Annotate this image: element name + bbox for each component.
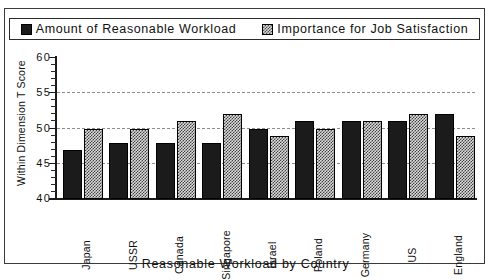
y-minor-tick <box>51 64 56 65</box>
x-axis-title: Reasonable Workload by Country <box>5 257 486 271</box>
bar-series-b <box>316 129 335 200</box>
category-label: Japan <box>58 203 102 259</box>
chart-legend: Amount of Reasonable Workload Importance… <box>9 18 480 40</box>
y-minor-tick <box>51 177 56 178</box>
bar-series-b <box>363 121 382 199</box>
x-axis-category-labels: JapanUSSRCanadaSingaporeIsraelPolandGerm… <box>57 203 477 261</box>
y-minor-tick <box>51 106 56 107</box>
y-minor-tick <box>51 170 56 171</box>
chart-figure-frame: Amount of Reasonable Workload Importance… <box>4 8 485 264</box>
bar-series-a <box>202 143 221 199</box>
bar-group <box>154 58 200 199</box>
bar-series-b <box>409 114 428 199</box>
y-major-tick <box>49 57 57 58</box>
bar-series-b <box>84 129 103 200</box>
bar-series-a <box>109 143 128 199</box>
plot-area: Within Dimension T Score 6055504540 Japa… <box>5 43 486 264</box>
bar-group <box>340 58 386 199</box>
category-label: Singapore <box>198 203 242 259</box>
bar-group <box>247 58 293 199</box>
legend-label-series-a: Amount of Reasonable Workload <box>36 22 237 36</box>
category-label: England <box>430 203 474 259</box>
y-minor-tick <box>51 99 56 100</box>
bar-series-a <box>249 129 268 200</box>
category-label: Israel <box>244 203 288 259</box>
legend-label-series-b: Importance for Job Satisfaction <box>277 22 468 36</box>
legend-entry-series-a: Amount of Reasonable Workload <box>21 22 237 36</box>
y-minor-tick <box>51 149 56 150</box>
y-major-tick <box>49 128 57 129</box>
bar-series-a <box>388 121 407 199</box>
category-label: Poland <box>290 203 334 259</box>
bar-group <box>200 58 246 199</box>
bar-series-a <box>435 114 454 199</box>
y-minor-tick <box>51 85 56 86</box>
category-label: Germany <box>337 203 381 259</box>
y-minor-tick <box>51 71 56 72</box>
y-minor-tick <box>51 142 56 143</box>
y-minor-tick <box>51 135 56 136</box>
bar-group <box>107 58 153 199</box>
bar-series-b <box>270 136 289 199</box>
category-label-text: Singapore <box>220 230 232 280</box>
y-minor-tick <box>51 184 56 185</box>
bar-series-a <box>156 143 175 199</box>
y-major-tick <box>49 198 57 199</box>
bar-group <box>61 58 107 199</box>
bar-group <box>433 58 479 199</box>
legend-entry-series-b: Importance for Job Satisfaction <box>262 22 468 36</box>
bar-series-a <box>63 150 82 199</box>
y-major-tick <box>49 163 57 164</box>
category-label: Canada <box>151 203 195 259</box>
bar-series-container <box>57 57 475 199</box>
bar-series-b <box>223 114 242 199</box>
y-axis-title: Within Dimension T Score <box>13 43 29 203</box>
bar-group <box>386 58 432 199</box>
bar-series-a <box>295 121 314 199</box>
bar-group <box>293 58 339 199</box>
y-minor-tick <box>51 113 56 114</box>
y-major-tick <box>49 92 57 93</box>
category-label: USSR <box>105 203 149 259</box>
cropped-title-sliver <box>0 0 491 6</box>
y-minor-tick <box>51 191 56 192</box>
bar-series-b <box>130 129 149 200</box>
category-label: US <box>383 203 427 259</box>
hatched-square-icon <box>262 24 273 35</box>
y-minor-tick <box>51 120 56 121</box>
axis-area <box>55 57 475 199</box>
solid-black-square-icon <box>21 24 32 35</box>
y-minor-tick <box>51 78 56 79</box>
bar-series-b <box>456 136 475 199</box>
bar-series-b <box>177 121 196 199</box>
bar-series-a <box>342 121 361 199</box>
y-minor-tick <box>51 156 56 157</box>
y-axis-tick-labels: 6055504540 <box>29 43 51 203</box>
